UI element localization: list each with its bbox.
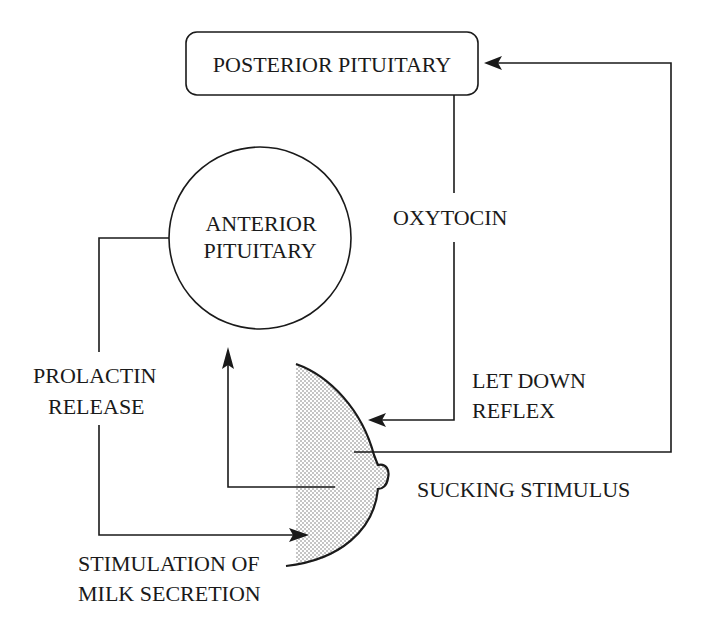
lactation-reflex-diagram: POSTERIOR PITUITARY ANTERIOR PITUITARY O…	[0, 0, 702, 629]
stimulation-label-line2: MILK SECRETION	[78, 581, 261, 606]
prolactin-release-label-line2: RELEASE	[48, 394, 145, 419]
let-down-reflex-label-line2: REFLEX	[472, 398, 555, 423]
anterior-pituitary-label-line1: ANTERIOR	[205, 211, 317, 236]
prolactin-release-arrow	[99, 238, 309, 542]
oxytocin-label: OXYTOCIN	[393, 205, 508, 230]
anterior-pituitary-node: ANTERIOR PITUITARY	[169, 147, 351, 329]
posterior-pituitary-node: POSTERIOR PITUITARY	[186, 32, 478, 95]
let-down-reflex-label-line1: LET DOWN	[472, 368, 586, 393]
oxytocin-let-down-arrow	[368, 95, 454, 427]
stimulation-label-line1: STIMULATION OF	[78, 551, 260, 576]
sucking-stimulus-label: SUCKING STIMULUS	[417, 477, 630, 502]
posterior-pituitary-label: POSTERIOR PITUITARY	[213, 52, 452, 77]
breast-shape	[296, 364, 389, 565]
prolactin-release-label-line1: PROLACTIN	[33, 363, 157, 388]
anterior-pituitary-label-line2: PITUITARY	[203, 238, 316, 263]
